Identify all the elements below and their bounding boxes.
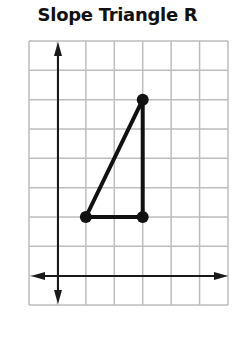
x-axis-right-arrow-icon: [214, 272, 228, 280]
vertex-point-bottom-right: [137, 211, 149, 223]
x-axis-left-arrow-icon: [31, 272, 45, 280]
y-axis-down-arrow-icon: [54, 290, 62, 304]
coordinate-grid: [0, 0, 235, 343]
vertex-point-top: [137, 94, 149, 106]
x-axis: [31, 272, 228, 280]
y-axis: [54, 42, 62, 304]
vertex-point-bottom-left: [80, 211, 92, 223]
y-axis-up-arrow-icon: [54, 42, 62, 56]
